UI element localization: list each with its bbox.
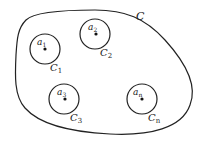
- circle-group-3: a3 C3: [49, 84, 82, 125]
- circle-C2-label: C2: [100, 47, 112, 60]
- point-an-label: an: [133, 87, 142, 98]
- outer-contour-label: C: [136, 10, 145, 23]
- point-a2-label: a2: [88, 22, 97, 33]
- point-a3-label: a3: [57, 87, 66, 98]
- circle-group-n: an Cn: [127, 84, 161, 125]
- circle-Cn-label: Cn: [148, 112, 161, 125]
- circle-C3-label: C3: [70, 112, 82, 125]
- outer-contour-C: [15, 10, 192, 134]
- contour-diagram: C a1 C1 a2 C2 a3 C3: [0, 0, 207, 143]
- point-a1-label: a1: [37, 37, 46, 48]
- circle-C1-label: C1: [50, 62, 62, 75]
- circle-group-1: a1 C1: [30, 34, 62, 75]
- circle-group-2: a2 C2: [80, 19, 112, 60]
